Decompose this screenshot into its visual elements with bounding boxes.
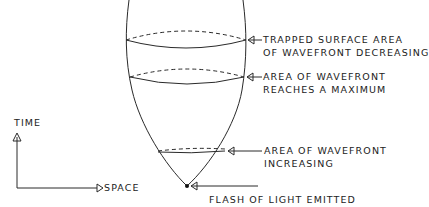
cone-right-boundary [187, 0, 246, 186]
label-trapped-line2: OF WAVEFRONT DECREASING [263, 47, 429, 59]
wavefront-increasing-back [158, 148, 225, 151]
wavefront-maximum-back [130, 69, 244, 77]
wavefront-trapped-front [126, 40, 246, 48]
label-increasing-line1: AREA OF WAVEFRONT [264, 145, 387, 157]
time-axis-label: TIME [14, 117, 41, 129]
space-axis-arrowhead-icon [97, 184, 103, 192]
cone-left-boundary [126, 0, 187, 186]
flash-point [185, 184, 189, 188]
label-flash: FLASH OF LIGHT EMITTED [209, 194, 356, 206]
label-increasing-line2: INCREASING [264, 158, 334, 170]
wavefront-maximum-front [130, 77, 244, 84]
space-axis-label: SPACE [104, 182, 140, 194]
label-trapped-line1: TRAPPED SURFACE AREA [263, 34, 403, 46]
wavefront-trapped-back [126, 31, 246, 40]
label-maximum-line2: REACHES A MAXIMUM [263, 84, 386, 96]
label-maximum-line1: AREA OF WAVEFRONT [263, 71, 386, 83]
